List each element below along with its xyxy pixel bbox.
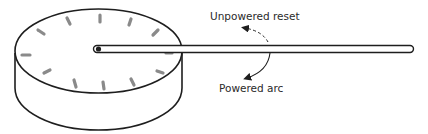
needle-pivot bbox=[96, 46, 101, 51]
dial-diagram: Unpowered reset Powered arc bbox=[0, 0, 428, 134]
unpowered-reset-arrow bbox=[245, 28, 268, 42]
dial-needle bbox=[94, 46, 414, 53]
unpowered-reset-label: Unpowered reset bbox=[210, 10, 300, 22]
powered-arc-label: Powered arc bbox=[219, 82, 283, 94]
powered-arc-arrow bbox=[247, 53, 270, 78]
